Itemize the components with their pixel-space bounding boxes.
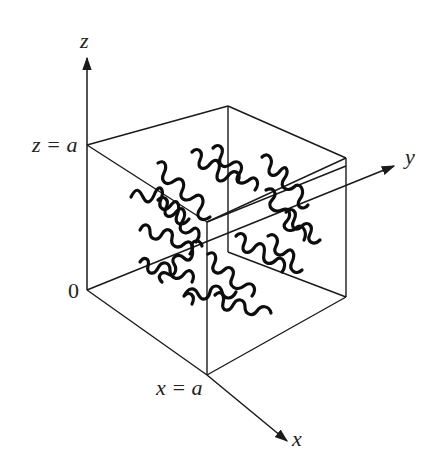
z-equals-a-label: z = a <box>32 134 77 156</box>
polymer-chain <box>140 259 193 282</box>
x-axis-label: x <box>292 428 302 450</box>
y-axis-label: y <box>405 146 415 168</box>
polymer-chain <box>192 150 239 182</box>
polymer-chain <box>215 293 271 315</box>
polymer-chain <box>140 225 192 254</box>
coordinate-axes <box>87 58 394 441</box>
x-axis-arrow <box>207 375 287 441</box>
cube-edge-bottom-back-right <box>228 252 346 297</box>
polymer-chain <box>262 155 308 208</box>
y-axis-arrow <box>87 166 394 290</box>
polymer-chains <box>131 146 320 315</box>
cube-edge-top-back-right <box>228 106 346 158</box>
cube-edge-top-front-left <box>87 145 207 222</box>
origin-label: 0 <box>68 280 79 302</box>
x-equals-a-label: x = a <box>156 377 203 399</box>
z-axis-label: z <box>80 30 89 52</box>
cube-edge-bottom-front-left <box>87 290 207 375</box>
polymer-chain <box>184 286 236 304</box>
cube-polymer-diagram: z y x z = a x = a 0 <box>0 0 440 470</box>
diagram-canvas <box>0 0 440 470</box>
cube-edge-top-back-left <box>87 106 228 145</box>
